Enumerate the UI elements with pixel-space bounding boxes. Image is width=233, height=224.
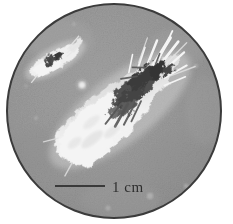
scalebar-label: 1 cm [112, 179, 144, 195]
micrograph-figure: 1 cm [0, 0, 233, 224]
micrograph-canvas: 1 cm [0, 0, 233, 224]
